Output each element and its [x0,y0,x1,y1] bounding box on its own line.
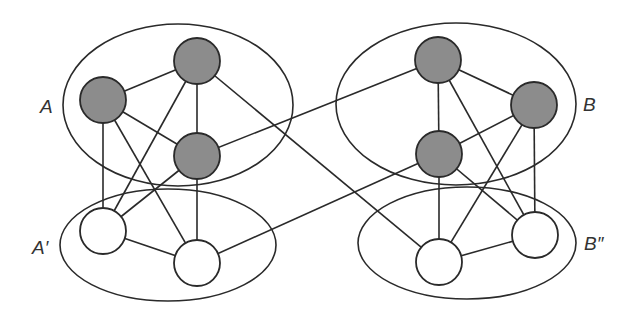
node-b-double-prime1-hollow [416,239,462,285]
group-label-b-double-prime: B″ [584,233,605,254]
edge-a3-b1 [197,60,438,156]
group-label-b: B [583,94,596,115]
node-a-prime2-hollow [174,240,220,286]
node-a2-filled [174,38,220,84]
node-b-double-prime2-hollow [512,212,558,258]
node-b2-filled [511,82,557,128]
node-b1-filled [415,37,461,83]
node-b3-filled [416,131,462,177]
edges-layer [103,60,535,263]
edge-a-prime2-b3 [197,154,439,263]
node-a1-filled [80,77,126,123]
node-a-prime1-hollow [80,208,126,254]
node-a3-filled [174,133,220,179]
edge-a2-b-double-prime1 [197,61,439,262]
group-label-a-prime: A′ [31,237,50,258]
group-label-a: A [39,96,53,117]
graph-diagram: AA′BB″ [0,0,634,313]
